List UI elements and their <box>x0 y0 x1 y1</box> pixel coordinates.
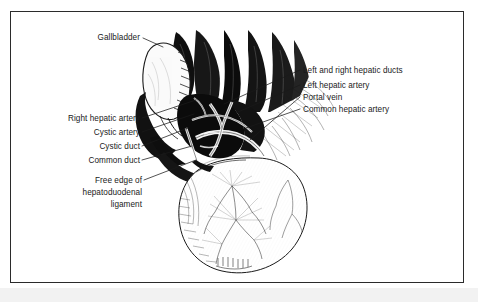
page-margin-band <box>0 288 478 302</box>
label-cystic-duct: Cystic duct <box>20 141 140 153</box>
label-free-edge-line3: ligament <box>22 199 142 211</box>
figure-canvas: Gallbladder Right hepatic artery Cystic … <box>0 0 478 302</box>
label-common-duct: Common duct <box>20 155 140 167</box>
label-free-edge-line2: hepatoduodenal <box>22 187 142 199</box>
label-right-hepatic-artery: Right hepatic artery <box>20 113 140 125</box>
label-free-edge-line1: Free edge of <box>22 175 142 187</box>
label-left-hepatic-artery: Left hepatic artery <box>303 80 370 92</box>
label-left-and-right-hepatic-ducts: Left and right hepatic ducts <box>303 65 403 77</box>
label-common-hepatic-artery: Common hepatic artery <box>303 104 389 116</box>
label-cystic-artery: Cystic artery <box>20 127 140 139</box>
label-gallbladder: Gallbladder <box>28 32 140 44</box>
label-portal-vein: Portal vein <box>303 92 342 104</box>
